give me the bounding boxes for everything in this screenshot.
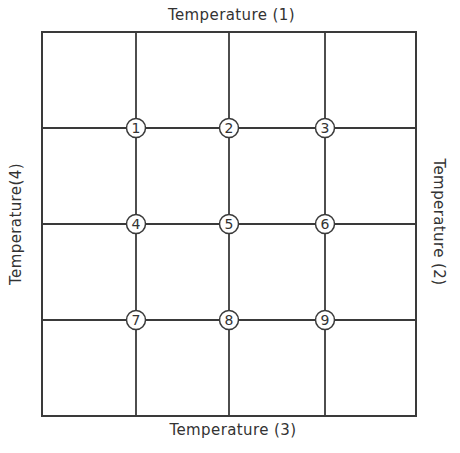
node-label: 5 [225,216,234,232]
node-4: 4 [127,215,146,234]
node-label: 2 [225,120,234,136]
node-label: 3 [321,120,330,136]
node-7: 7 [127,311,146,330]
node-label: 7 [132,312,141,328]
node-2: 2 [220,119,239,138]
temperature-grid-diagram: Temperature (1) Temperature (2) Temperat… [0,0,460,453]
node-label: 9 [321,312,330,328]
node-label: 1 [132,120,141,136]
node-1: 1 [127,119,146,138]
grid-canvas: 123456789 [0,0,460,453]
node-5: 5 [220,215,239,234]
node-6: 6 [316,215,335,234]
node-label: 4 [132,216,141,232]
node-3: 3 [316,119,335,138]
node-label: 6 [321,216,330,232]
node-8: 8 [220,311,239,330]
node-label: 8 [225,312,234,328]
node-9: 9 [316,311,335,330]
